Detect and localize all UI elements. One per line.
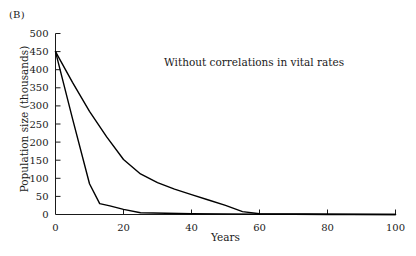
y-tick-label: 450 <box>29 46 48 57</box>
line-chart: 050100150200250300350400450500 020406080… <box>0 0 416 256</box>
y-tick-label: 100 <box>29 173 48 184</box>
y-tick-label: 400 <box>29 64 48 75</box>
x-tick-label: 0 <box>52 222 58 233</box>
x-tick-label: 40 <box>185 222 198 233</box>
data-series-group <box>56 52 396 215</box>
series-line-rapid-decline <box>56 52 396 215</box>
y-tick-label: 350 <box>29 82 48 93</box>
y-tick-label: 300 <box>29 100 48 111</box>
y-tick-label: 0 <box>42 209 48 220</box>
x-tick-label: 80 <box>321 222 334 233</box>
x-tick-label: 60 <box>253 222 266 233</box>
x-tick-label: 20 <box>117 222 130 233</box>
x-tick-label: 100 <box>386 222 405 233</box>
y-tick-label: 200 <box>29 137 48 148</box>
series-line-slow-decline <box>56 52 396 215</box>
y-tick-label: 500 <box>29 28 48 39</box>
figure-panel-b: (B) Population size (thousands) Years Wi… <box>0 0 416 256</box>
y-tick-label: 150 <box>29 155 48 166</box>
y-tick-label: 50 <box>36 191 49 202</box>
x-axis-ticks: 020406080100 <box>52 210 405 233</box>
y-tick-label: 250 <box>29 119 48 130</box>
